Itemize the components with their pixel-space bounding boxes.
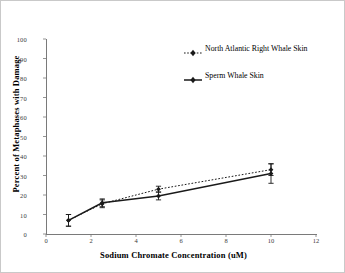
x-axis-title: Sodium Chromate Concentration (uM): [1, 250, 345, 260]
y-axis-title: Percent of Metaphases with Damage: [11, 29, 21, 219]
y-tick-label: 0: [7, 231, 27, 238]
dotted-diamond-key: [184, 44, 202, 54]
legend-label: North Atlantic Right Whale Skin: [205, 44, 308, 54]
x-tick-label: 0: [36, 237, 56, 244]
solid-diamond-key: [184, 71, 202, 81]
legend-item-north-atlantic-right-whale-skin: North Atlantic Right Whale Skin: [184, 39, 339, 58]
legend: North Atlantic Right Whale Skin Sperm Wh…: [184, 39, 339, 85]
x-tick-label: 10: [261, 237, 281, 244]
x-tick-label: 12: [306, 237, 326, 244]
chart-figure: 100 90 80 70 60 50 40 30 20 10 0 0 2 4 6…: [0, 0, 345, 273]
x-tick-label: 2: [81, 237, 101, 244]
x-tick-label: 6: [171, 237, 191, 244]
x-tick-label: 4: [126, 237, 146, 244]
legend-item-sperm-whale-skin: Sperm Whale Skin: [184, 66, 339, 85]
x-tick-label: 8: [216, 237, 236, 244]
legend-label: Sperm Whale Skin: [205, 71, 264, 81]
